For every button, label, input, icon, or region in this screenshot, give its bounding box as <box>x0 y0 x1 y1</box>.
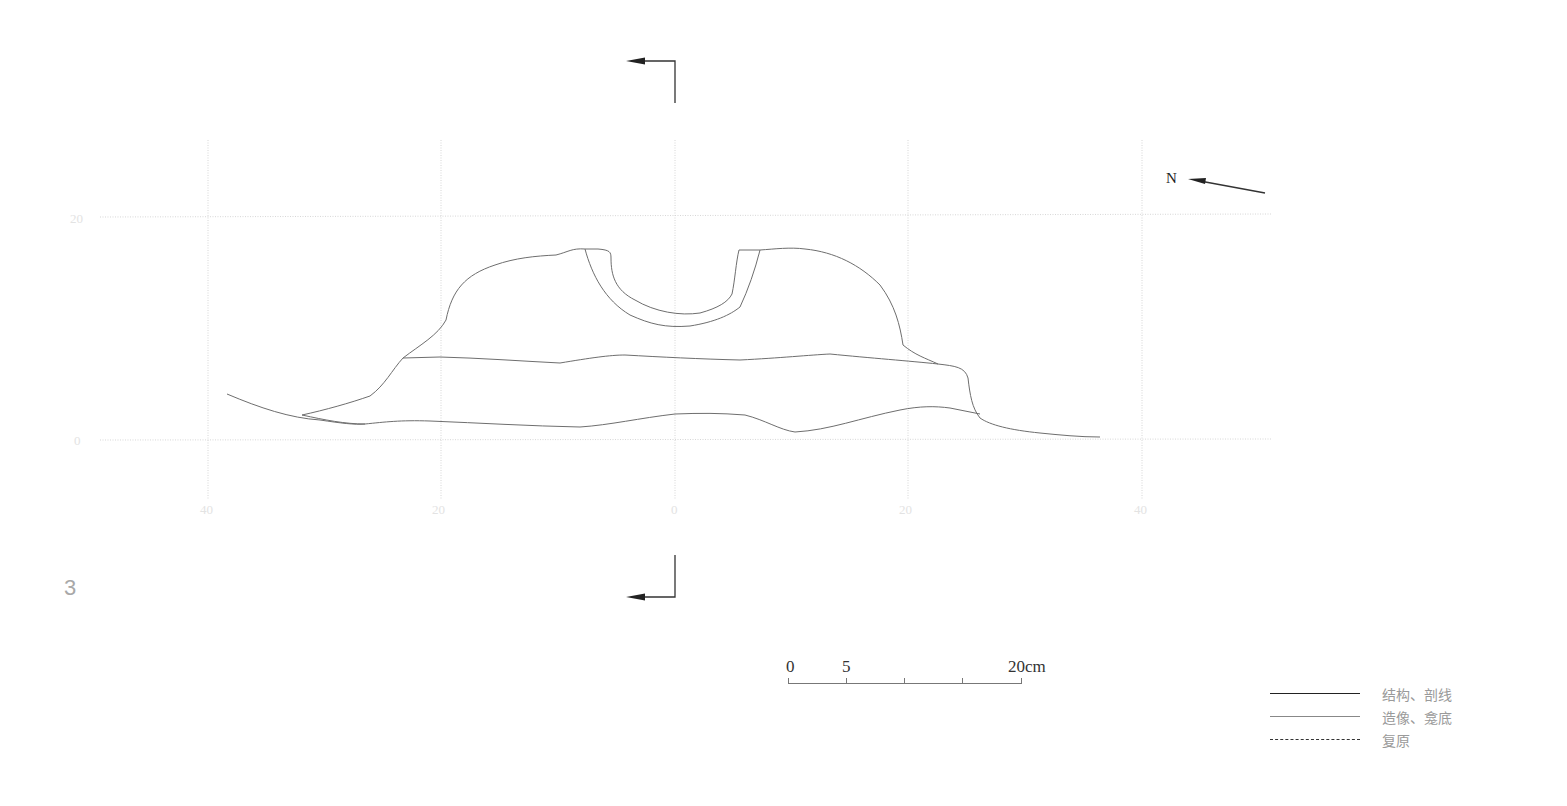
scale-bar: 0 5 20cm <box>786 657 1046 697</box>
niche-profile <box>227 248 1100 437</box>
x-label-0: 0 <box>671 502 678 517</box>
north-arrow-icon <box>1188 178 1265 193</box>
legend-label: 结构、剖线 <box>1382 684 1452 704</box>
x-label-neg40: 40 <box>200 502 213 517</box>
x-label-20: 20 <box>899 502 912 517</box>
legend: 结构、剖线 造像、龛底 复原 <box>1270 684 1470 753</box>
legend-label: 造像、龛底 <box>1382 707 1452 727</box>
left-slope <box>302 358 403 415</box>
legend-swatch-heavy <box>1270 693 1360 694</box>
reference-grid <box>100 140 1272 500</box>
legend-item-structure: 结构、剖线 <box>1270 684 1470 707</box>
legend-label: 复原 <box>1382 730 1410 750</box>
scale-tick <box>788 678 789 684</box>
scale-label-5: 5 <box>842 657 851 677</box>
outer-niche-outline <box>403 248 938 364</box>
figure-number: 3 <box>64 575 76 601</box>
scale-tick <box>904 678 905 684</box>
y-label-20: 20 <box>70 211 83 226</box>
section-marker-bottom <box>626 555 675 601</box>
north-label: N <box>1166 170 1177 187</box>
scale-tick <box>1021 678 1022 684</box>
y-label-0: 0 <box>74 433 81 448</box>
scale-tick <box>962 678 963 684</box>
x-label-neg20: 20 <box>432 502 445 517</box>
axis-labels: 20 0 40 20 0 20 40 <box>70 211 1147 517</box>
scale-label-20cm: 20cm <box>1008 657 1046 677</box>
legend-swatch-thin <box>1270 716 1360 717</box>
scale-label-0: 0 <box>786 657 795 677</box>
base-curve-left <box>227 394 365 424</box>
legend-item-statue: 造像、龛底 <box>1270 707 1470 730</box>
scale-bar-line <box>788 683 1022 684</box>
legend-item-restoration: 复原 <box>1270 730 1470 753</box>
x-label-40: 40 <box>1134 502 1147 517</box>
section-marker-top <box>626 58 675 104</box>
legend-swatch-dashed <box>1270 739 1360 740</box>
scale-tick <box>846 678 847 684</box>
ledge-line <box>403 354 980 418</box>
base-line <box>302 407 980 432</box>
grid-line-y0 <box>100 439 1272 440</box>
right-tail <box>980 418 1100 437</box>
grid-line-y20 <box>100 214 1272 217</box>
